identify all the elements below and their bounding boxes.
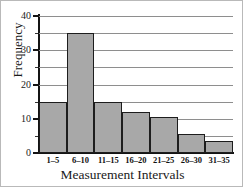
y-axis-minor-tick bbox=[35, 33, 38, 34]
y-axis-major-tick bbox=[33, 118, 38, 120]
y-axis-tick-label: 40 bbox=[9, 11, 31, 21]
y-axis-major-tick bbox=[33, 15, 38, 17]
y-axis-tick-label: 20 bbox=[9, 80, 31, 90]
y-axis-minor-tick bbox=[35, 67, 38, 68]
y-axis-major-tick bbox=[33, 152, 38, 154]
y-axis-minor-tick bbox=[35, 102, 38, 103]
histogram-figure: Frequency 010203040 1–56–1011–1516–2021–… bbox=[0, 0, 243, 187]
bar bbox=[94, 102, 122, 153]
y-axis-tick-labels: 010203040 bbox=[7, 1, 31, 187]
y-axis-major-tick bbox=[33, 49, 38, 51]
y-axis-tick-label: 10 bbox=[9, 114, 31, 124]
bar bbox=[39, 102, 67, 153]
bar bbox=[67, 33, 95, 153]
y-axis-tick-label: 0 bbox=[9, 148, 31, 158]
x-axis-tick-labels: 1–56–1011–1516–2021–2526–3031–35 bbox=[39, 155, 233, 167]
bar bbox=[150, 117, 178, 153]
plot-area bbox=[39, 16, 233, 153]
y-axis-minor-tick bbox=[35, 136, 38, 137]
x-axis-title: Measurement Intervals bbox=[1, 167, 243, 183]
x-axis-tick-label: 31–35 bbox=[201, 155, 237, 166]
y-axis-tick-label: 30 bbox=[9, 45, 31, 55]
bar bbox=[122, 112, 150, 153]
bar bbox=[205, 141, 233, 153]
bars-group bbox=[39, 16, 233, 153]
bar bbox=[178, 134, 206, 153]
y-axis-major-tick bbox=[33, 84, 38, 86]
